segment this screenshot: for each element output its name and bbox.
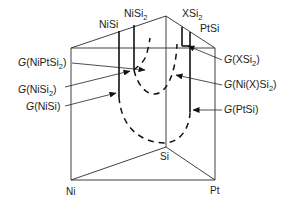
outer-gibbs-curve [119, 97, 190, 143]
ternary-prism-diagram: NiSi NiSi2 XSi2 PtSi G(NiPtSi2) G(NiSi2)… [0, 0, 284, 203]
label-g-ptsi: G(PtSi) [224, 103, 258, 115]
label-g-nixsi2: G(Ni(X)Si2) [224, 78, 277, 93]
vertex-ni: Ni [66, 186, 75, 197]
label-nisi2: NiSi2 [124, 7, 147, 22]
inner-gibbs-curve [134, 44, 177, 94]
label-g-niptsi2: G(NiPtSi2) [18, 56, 67, 71]
label-g-nisi: G(NiSi) [26, 100, 60, 112]
vertex-si: Si [160, 151, 169, 162]
edge-base-si-pt [166, 147, 215, 180]
label-g-nisi2: G(NiSi2) [18, 83, 57, 98]
niptsi2-curve [134, 38, 150, 70]
label-g-xsi2: G(XSi2) [224, 53, 260, 68]
vertex-pt: Pt [210, 185, 220, 196]
label-ptsi: PtSi [200, 22, 219, 34]
leader-arrows [65, 46, 222, 110]
free-energy-curves [119, 38, 190, 143]
label-nisi: NiSi [99, 18, 118, 30]
edge-base-ni-si [71, 147, 166, 180]
arrow-nisi2 [65, 71, 130, 87]
arrow-nisi [65, 93, 116, 106]
prism-frame [71, 16, 215, 180]
label-xsi2: XSi2 [182, 7, 203, 22]
